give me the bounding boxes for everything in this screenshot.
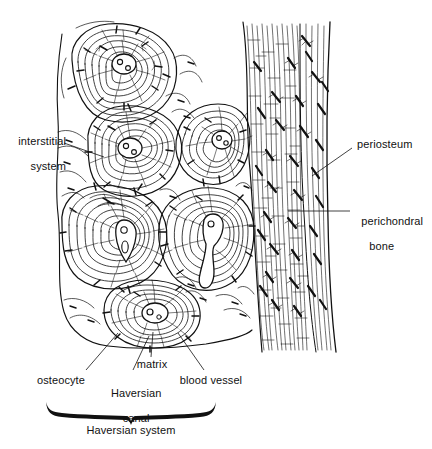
label-matrix: matrix bbox=[129, 358, 175, 371]
label-perichondral-bone: perichondral bone bbox=[355, 202, 432, 252]
label-perichondral-bone-line1: perichondral bbox=[361, 215, 423, 227]
label-periosteum: periosteum bbox=[357, 138, 432, 151]
label-perichondral-bone-line2: bone bbox=[361, 240, 394, 253]
label-haversian-canal: Haversian canal bbox=[93, 374, 173, 424]
label-interstitial-system-line2: system bbox=[31, 160, 66, 172]
haversian-canal bbox=[118, 138, 142, 158]
label-interstitial-system-line1: interstitial bbox=[18, 135, 66, 147]
label-haversian-canal-line2: canal bbox=[123, 412, 150, 424]
label-interstitial-system: interstitial system bbox=[0, 122, 66, 172]
label-osteocyte: osteocyte bbox=[24, 374, 98, 387]
label-blood-vessel: blood vessel bbox=[172, 374, 250, 387]
haversian-canal bbox=[112, 54, 136, 74]
label-haversian-canal-line1: Haversian bbox=[111, 387, 161, 399]
label-haversian-system: Haversian system bbox=[60, 424, 202, 437]
